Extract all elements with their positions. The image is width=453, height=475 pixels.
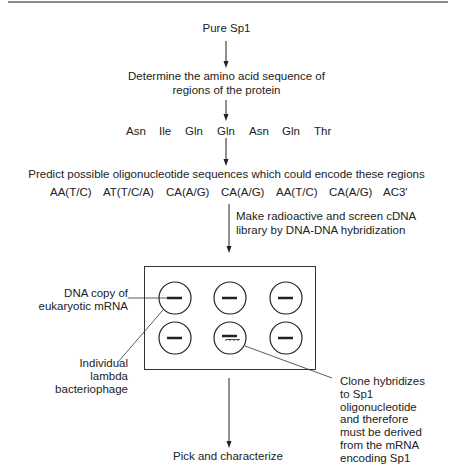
codon: CA(A/G) xyxy=(221,186,264,198)
amino-acid: Ile xyxy=(159,125,171,137)
plaque-hybridized xyxy=(214,322,246,354)
plaque-4 xyxy=(159,322,191,354)
amino-acid: Thr xyxy=(314,125,331,137)
codon: AA(T/C) xyxy=(50,186,92,198)
codon: CA(A/G) xyxy=(166,186,209,198)
label-clone-line: to Sp1 xyxy=(340,388,425,401)
label-phage-line2: lambda xyxy=(20,370,128,383)
step-screen-line2: library by DNA-DNA hybridization xyxy=(236,224,405,237)
step-pick: Pick and characterize xyxy=(173,450,283,463)
label-clone-line: from the mRNA xyxy=(340,439,425,452)
label-clone-line: and therefore xyxy=(340,413,425,426)
step-pure-sp1: Pure Sp1 xyxy=(0,22,453,35)
label-clone: Clone hybridizes to Sp1 oligonucleotide … xyxy=(340,375,425,465)
plaque-6 xyxy=(270,322,302,354)
amino-acid: Gln xyxy=(217,125,235,137)
leader-clone xyxy=(245,346,332,378)
label-clone-line: encoding Sp1 xyxy=(340,452,425,465)
step-screen-line1: Make radioactive and screen cDNA xyxy=(236,210,416,223)
step-determine-line2: regions of the protein xyxy=(0,84,453,97)
step-predict: Predict possible oligonucleotide sequenc… xyxy=(0,168,453,181)
step-determine-line1: Determine the amino acid sequence of xyxy=(0,70,453,83)
codon: AC3' xyxy=(383,186,408,198)
label-phage-line1: Individual xyxy=(20,357,128,370)
label-clone-line: oligonucleotide xyxy=(340,401,425,414)
plaque-3 xyxy=(270,282,302,314)
label-clone-line: Clone hybridizes xyxy=(340,375,425,388)
amino-acid: Asn xyxy=(249,125,269,137)
amino-acid: Gln xyxy=(282,125,300,137)
label-phage-line3: bacteriophage xyxy=(20,383,128,396)
amino-acid: Asn xyxy=(126,125,146,137)
amino-acid: Gln xyxy=(185,125,203,137)
leader-phage xyxy=(118,310,163,362)
codon: AT(T/C/A) xyxy=(103,186,154,198)
label-clone-line: must be derived xyxy=(340,426,425,439)
label-dna-line2: eukaryotic mRNA xyxy=(20,300,128,313)
label-dna-line1: DNA copy of xyxy=(20,287,128,300)
codon: CA(A/G) xyxy=(329,186,372,198)
codon: AA(T/C) xyxy=(276,186,318,198)
plaque-2 xyxy=(214,282,246,314)
